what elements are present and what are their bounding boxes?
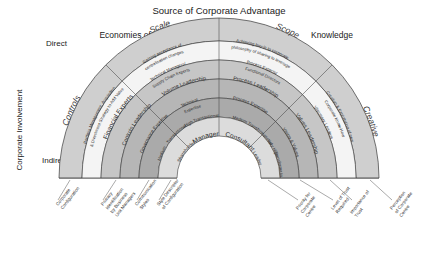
page-title: Source of Corporate Advantage <box>152 5 285 16</box>
axis-tick-direct: Direct <box>46 39 68 48</box>
axis-label-corporate-involvement: Corporate Involvement <box>15 89 24 171</box>
header-knowledge: Knowledge <box>311 30 353 40</box>
bottom-labels: Corporate Configuration Primary Identifi… <box>55 178 418 219</box>
diagram-canvas: Source of Corporate Advantage Economies … <box>0 0 438 266</box>
